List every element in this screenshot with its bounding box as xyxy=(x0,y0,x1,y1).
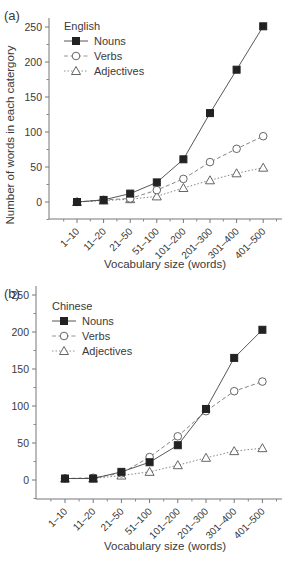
square-marker-icon xyxy=(100,196,107,203)
square-marker-icon xyxy=(62,475,69,482)
legend-label-adjectives: Adjectives xyxy=(94,65,145,77)
y-tick-label: 150 xyxy=(24,91,42,103)
y-tick-label: 0 xyxy=(36,196,42,208)
square-marker-icon xyxy=(233,66,240,73)
legend-open-triangle-icon xyxy=(60,347,69,355)
legend-open-circle-icon xyxy=(72,52,80,60)
circle-marker-icon xyxy=(206,158,214,166)
legend-label-verbs: Verbs xyxy=(82,330,111,342)
series-verbs xyxy=(61,378,266,483)
triangle-marker-icon xyxy=(173,461,182,469)
x-tick-label: 11–20 xyxy=(71,505,98,532)
legend-label-adjectives: Adjectives xyxy=(82,345,133,357)
square-marker-icon xyxy=(118,468,125,475)
square-marker-icon xyxy=(127,190,134,197)
circle-marker-icon xyxy=(259,378,267,386)
y-tick-label: 150 xyxy=(11,363,29,375)
circle-marker-icon xyxy=(233,145,241,153)
chart-panel-b: (b)0501001502002501–1011–2021–5051–10010… xyxy=(4,286,282,552)
panel-label: (a) xyxy=(4,8,20,23)
x-tick-label: 1–10 xyxy=(58,225,82,249)
x-tick-label: 11–20 xyxy=(81,225,108,252)
legend-label-nouns: Nouns xyxy=(82,315,114,327)
x-axis-label: Vocabulary size (words) xyxy=(104,258,226,270)
square-marker-icon xyxy=(207,110,214,117)
y-tick-label: 250 xyxy=(11,289,29,301)
legend-filled-square-icon xyxy=(73,38,80,45)
y-axis-label: Number of words in each catergory xyxy=(4,45,16,224)
square-marker-icon xyxy=(74,199,81,206)
series-line xyxy=(65,382,262,479)
x-tick-label: 401–500 xyxy=(232,505,268,541)
legend-title: Chinese xyxy=(52,300,92,312)
legend: EnglishNounsVerbsAdjectives xyxy=(64,20,145,77)
triangle-marker-icon xyxy=(202,453,211,461)
triangle-marker-icon xyxy=(258,444,267,452)
series-verbs xyxy=(73,132,267,205)
square-marker-icon xyxy=(90,475,97,482)
legend-label-nouns: Nouns xyxy=(94,35,126,47)
triangle-marker-icon xyxy=(259,163,268,171)
legend-open-circle-icon xyxy=(60,332,68,340)
circle-marker-icon xyxy=(230,387,238,395)
circle-marker-icon xyxy=(153,186,161,194)
y-tick-label: 100 xyxy=(11,400,29,412)
y-tick-label: 200 xyxy=(11,326,29,338)
y-tick-label: 200 xyxy=(24,56,42,68)
circle-marker-icon xyxy=(174,433,182,441)
legend: ChineseNounsVerbsAdjectives xyxy=(52,300,133,357)
square-marker-icon xyxy=(146,459,153,466)
legend-title: English xyxy=(64,20,100,32)
y-tick-label: 50 xyxy=(30,161,42,173)
triangle-marker-icon xyxy=(206,176,215,184)
square-marker-icon xyxy=(180,156,187,163)
legend-filled-square-icon xyxy=(61,318,68,325)
y-tick-label: 0 xyxy=(23,474,29,486)
square-marker-icon xyxy=(203,405,210,412)
y-tick-label: 100 xyxy=(24,126,42,138)
square-marker-icon xyxy=(153,179,160,186)
y-tick-label: 250 xyxy=(24,21,42,33)
square-marker-icon xyxy=(260,23,267,30)
triangle-marker-icon xyxy=(179,184,188,192)
chart-panel-a: (a)0501001502002501–1011–2021–5051–10010… xyxy=(4,8,282,270)
circle-marker-icon xyxy=(259,132,267,140)
circle-marker-icon xyxy=(180,175,188,183)
legend-label-verbs: Verbs xyxy=(94,50,123,62)
figure: (a)0501001502002501–1011–2021–5051–10010… xyxy=(0,0,298,562)
square-marker-icon xyxy=(174,442,181,449)
y-tick-label: 50 xyxy=(17,437,29,449)
legend-open-triangle-icon xyxy=(72,67,81,75)
square-marker-icon xyxy=(259,326,266,333)
x-tick-label: 1–10 xyxy=(46,505,70,529)
x-axis-label: Vocabulary size (words) xyxy=(104,540,226,552)
square-marker-icon xyxy=(231,354,238,361)
triangle-marker-icon xyxy=(232,169,241,177)
